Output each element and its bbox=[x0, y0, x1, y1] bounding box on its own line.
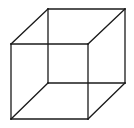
cube-wireframe bbox=[0, 0, 134, 128]
bottom-right-depth-edge bbox=[88, 83, 125, 119]
necker-cube-diagram bbox=[0, 0, 134, 128]
cube-depth-edges bbox=[11, 9, 125, 119]
top-left-depth-edge bbox=[11, 9, 48, 44]
top-right-depth-edge bbox=[88, 9, 125, 44]
bottom-left-depth-edge bbox=[11, 83, 48, 119]
